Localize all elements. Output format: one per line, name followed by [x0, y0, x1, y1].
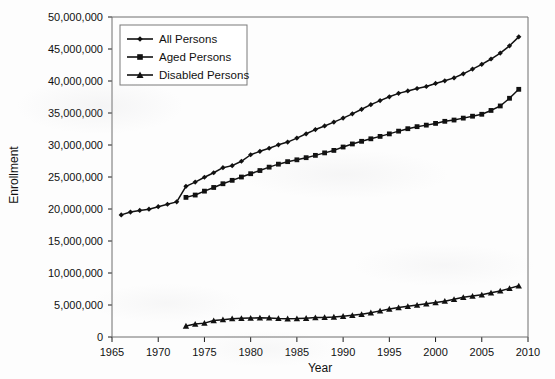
x-axis-tick-label: 2005 — [470, 346, 494, 358]
x-axis-tick-label: 1985 — [285, 346, 309, 358]
data-point-marker — [331, 119, 336, 124]
data-point-marker — [128, 209, 133, 214]
data-point-marker — [322, 150, 327, 155]
data-point-marker — [239, 175, 244, 180]
y-axis-tick-label: 35,000,000 — [48, 107, 103, 119]
x-axis-tick-label: 1965 — [100, 346, 124, 358]
data-point-marker — [498, 104, 503, 109]
data-point-marker — [461, 116, 466, 121]
data-point-marker — [470, 114, 475, 119]
data-point-marker — [359, 139, 364, 144]
x-axis-tick-label: 1970 — [146, 346, 170, 358]
x-axis-tick-label: 1975 — [192, 346, 216, 358]
y-axis-tick-label: 0 — [97, 331, 103, 343]
data-point-marker — [424, 84, 429, 89]
y-axis-tick-label: 25,000,000 — [48, 171, 103, 183]
data-point-marker — [211, 185, 216, 190]
data-point-marker — [193, 193, 198, 198]
chart-legend: All PersonsAged PersonsDisabled Persons — [120, 25, 249, 85]
data-point-marker — [285, 139, 290, 144]
y-axis-tick-label: 40,000,000 — [48, 75, 103, 87]
data-point-marker — [322, 123, 327, 128]
data-point-marker — [276, 142, 281, 147]
series-aged-persons — [184, 87, 522, 200]
legend-item-label: Disabled Persons — [159, 69, 249, 81]
legend-item-label: All Persons — [159, 33, 217, 45]
x-axis-title: Year — [308, 361, 332, 375]
x-axis-tick-label: 1990 — [331, 346, 355, 358]
data-point-marker — [516, 283, 522, 289]
data-point-marker — [489, 108, 494, 113]
data-point-marker — [230, 163, 235, 168]
data-point-marker — [378, 134, 383, 139]
data-point-marker — [137, 208, 142, 213]
data-point-marker — [267, 165, 272, 170]
data-point-marker — [433, 121, 438, 126]
data-point-marker — [442, 78, 447, 83]
data-point-marker — [405, 88, 410, 93]
data-point-marker — [377, 98, 382, 103]
y-axis-tick-marks — [108, 17, 112, 337]
data-point-marker — [304, 131, 309, 136]
data-point-marker — [341, 145, 346, 150]
data-point-marker — [221, 181, 226, 186]
x-axis-tick-labels: 1965197019751980198519901995200020052010 — [100, 346, 540, 358]
data-point-marker — [304, 155, 309, 160]
data-point-marker — [368, 136, 373, 141]
data-point-marker — [405, 126, 410, 131]
data-point-marker — [507, 96, 512, 101]
data-point-marker — [202, 175, 207, 180]
y-axis-tick-label: 50,000,000 — [48, 11, 103, 23]
data-point-marker — [184, 195, 189, 200]
y-axis-tick-label: 30,000,000 — [48, 139, 103, 151]
data-point-marker — [165, 202, 170, 207]
data-point-marker — [415, 124, 420, 129]
data-point-marker — [516, 87, 521, 92]
data-point-marker — [350, 142, 355, 147]
data-point-marker — [294, 135, 299, 140]
series-disabled-persons — [183, 283, 522, 329]
y-axis-tick-label: 10,000,000 — [48, 267, 103, 279]
data-point-marker — [414, 86, 419, 91]
data-point-marker — [294, 157, 299, 162]
y-axis-title: Enrollment — [7, 146, 21, 204]
data-point-marker — [313, 153, 318, 158]
data-point-marker — [119, 212, 124, 217]
x-axis-tick-label: 2010 — [516, 346, 540, 358]
data-point-marker — [202, 189, 207, 194]
data-point-marker — [146, 207, 151, 212]
line-chart: 05,000,00010,000,00015,000,00020,000,000… — [0, 0, 555, 379]
x-axis-tick-label: 1995 — [377, 346, 401, 358]
y-axis-tick-label: 20,000,000 — [48, 203, 103, 215]
data-point-marker — [359, 107, 364, 112]
data-point-marker — [451, 75, 456, 80]
data-point-marker — [331, 148, 336, 153]
data-point-marker — [368, 102, 373, 107]
data-point-marker — [276, 162, 281, 167]
data-point-marker — [156, 204, 161, 209]
y-axis-tick-label: 15,000,000 — [48, 235, 103, 247]
data-point-marker — [248, 171, 253, 176]
data-point-marker — [470, 66, 475, 71]
data-point-marker — [285, 159, 290, 164]
data-point-marker — [433, 81, 438, 86]
data-point-marker — [350, 111, 355, 116]
x-axis-tick-marks — [112, 337, 528, 342]
x-axis-tick-label: 1980 — [238, 346, 262, 358]
data-point-marker — [258, 168, 263, 173]
legend-item-label: Aged Persons — [159, 51, 231, 63]
y-axis-tick-label: 5,000,000 — [54, 299, 103, 311]
data-point-marker — [424, 123, 429, 128]
data-point-marker — [230, 178, 235, 183]
data-point-marker — [452, 118, 457, 123]
data-point-marker — [257, 149, 262, 154]
legend-square-marker — [137, 54, 143, 60]
series-line — [186, 286, 519, 326]
data-point-marker — [396, 129, 401, 134]
data-point-marker — [461, 71, 466, 76]
x-axis-tick-label: 2000 — [423, 346, 447, 358]
data-point-marker — [396, 91, 401, 96]
data-point-marker — [387, 131, 392, 136]
data-point-marker — [387, 94, 392, 99]
y-axis-tick-label: 45,000,000 — [48, 43, 103, 55]
